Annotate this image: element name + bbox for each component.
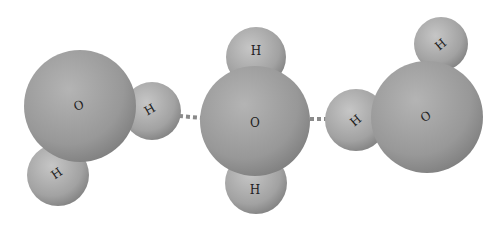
hydrogen-label: H <box>250 183 260 197</box>
water-hydrogen-bond-diagram: O H H H O H H H O <box>0 0 504 225</box>
water-molecule-left: O H H <box>24 50 181 206</box>
hydrogen-label: H <box>251 44 261 58</box>
water-molecule-right: H H O <box>325 17 483 173</box>
water-molecule-center: H O H <box>200 27 310 214</box>
oxygen-label: O <box>250 116 260 130</box>
hydrogen-bond-left <box>179 116 203 118</box>
